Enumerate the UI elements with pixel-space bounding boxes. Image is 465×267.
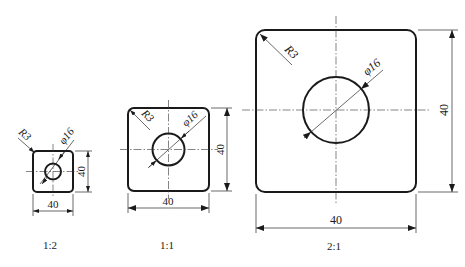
diameter-label: φ16 [360, 56, 383, 79]
scale-drawing: R3 φ16 40 40 1:2 R3 φ16 [0, 0, 465, 267]
diameter-arrow-1 [305, 132, 311, 137]
radius-label: R3 [16, 125, 34, 143]
view-scale-1-1: R3 φ16 40 40 1:1 [120, 100, 232, 251]
scale-label: 1:2 [43, 239, 57, 251]
radius-label: R3 [281, 42, 301, 62]
diameter-label: φ16 [56, 125, 76, 146]
scale-label: 2:1 [327, 240, 341, 252]
width-dim-label: 40 [163, 195, 175, 207]
diameter-leader [148, 116, 206, 168]
diameter-arrow-2 [59, 152, 65, 160]
diameter-leader [304, 70, 383, 138]
height-dim-label: 40 [75, 166, 87, 178]
diameter-arrow-2 [181, 131, 189, 139]
diameter-arrow-2 [361, 84, 367, 89]
diameter-label: φ16 [179, 108, 200, 129]
height-dim-label: 40 [214, 144, 226, 156]
view-scale-1-2: R3 φ16 40 40 1:2 [16, 125, 92, 251]
height-dim-label: 40 [437, 104, 451, 116]
diameter-arrow-1 [149, 161, 157, 168]
width-dim-label: 40 [48, 198, 60, 210]
view-scale-2-1: R3 φ16 40 40 2:1 [242, 16, 458, 252]
width-dim-label: 40 [330, 213, 342, 227]
scale-label: 1:1 [160, 239, 174, 251]
